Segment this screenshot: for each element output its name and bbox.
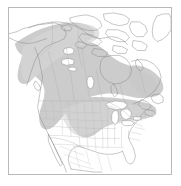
great-bear-lake [63,48,74,55]
north-america-map [9,8,171,174]
range-map-figure: North America species distribution map [0,0,181,186]
map-frame [8,7,172,175]
great-slave-lake [61,58,74,65]
